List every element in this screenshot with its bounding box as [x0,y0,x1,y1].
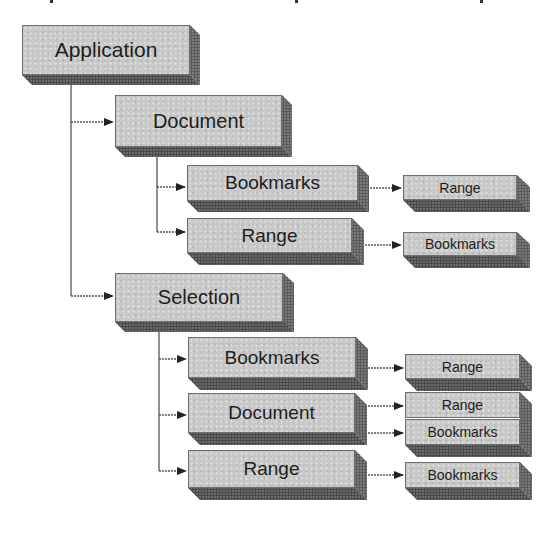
node-label: Range [187,218,352,253]
node-label: Document [188,393,355,433]
node-label: Document [115,95,282,147]
node-label: Range [405,354,520,379]
node-label: Bookmarks [188,337,356,378]
node-label: Bookmarks [187,165,358,201]
node-label: Application [22,25,190,75]
node-label: Bookmarks [403,232,517,256]
node-selection-document-bookmarks: Bookmarks [405,419,520,445]
node-label: Bookmarks [405,462,520,488]
node-selection-document-range: Range [405,392,520,418]
node-label: Range [403,175,517,200]
node-label: Selection [115,273,283,322]
node-label: Range [188,450,355,488]
